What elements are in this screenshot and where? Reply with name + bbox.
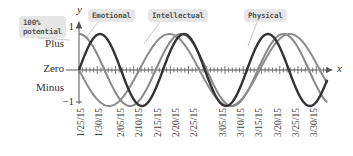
x-tick-label: 3/30/15 [309,108,319,137]
y-axis-arrow [76,21,82,28]
x-tick-label: 3/20/15 [273,108,283,137]
biorhythm-chart: 1/25/151/30/152/05/152/10/152/15/152/20/… [0,0,353,156]
potential-leader [38,38,70,40]
physical-leader [248,22,257,46]
x-tick-label: 1/25/15 [76,108,86,137]
x-tick-label: 2/05/15 [116,108,126,137]
x-tick-labels: 1/25/151/30/152/05/152/10/152/15/152/20/… [76,108,319,137]
x-tick-label: 3/10/15 [236,108,246,137]
x-tick-label: 3/15/15 [254,108,264,137]
x-tick-label: 3/25/15 [291,108,301,137]
x-tick-label: 2/25/15 [189,108,199,137]
x-tick-label: 2/20/15 [171,108,181,137]
x-tick-label: 1/30/15 [94,108,104,137]
x-tick-label: 2/10/15 [134,108,144,137]
x-tick-label: 3/05/15 [218,108,228,137]
x-tick-label: 2/15/15 [153,108,163,137]
